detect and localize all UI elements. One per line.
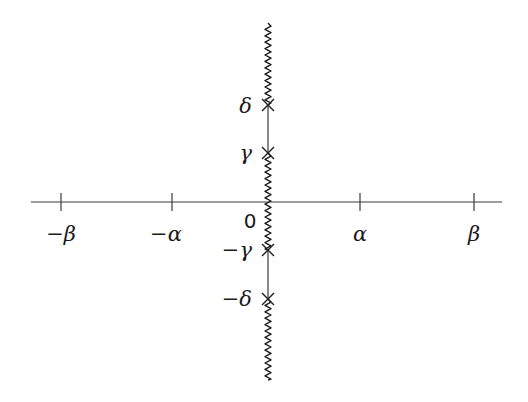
label-neg-delta: −δ xyxy=(222,287,252,311)
complex-plane-diagram: −β −α α β δ γ −γ −δ 0 xyxy=(0,0,528,402)
branch-cut-upper xyxy=(265,23,271,105)
label-delta: δ xyxy=(239,94,252,118)
label-gamma: γ xyxy=(239,141,252,165)
label-neg-beta: −β xyxy=(46,222,76,246)
label-neg-alpha: −α xyxy=(150,222,182,246)
branch-cut-lower xyxy=(265,299,271,380)
label-neg-gamma: −γ xyxy=(222,238,253,262)
label-origin: 0 xyxy=(244,209,257,233)
label-alpha: α xyxy=(353,222,367,246)
label-beta: β xyxy=(467,222,480,246)
